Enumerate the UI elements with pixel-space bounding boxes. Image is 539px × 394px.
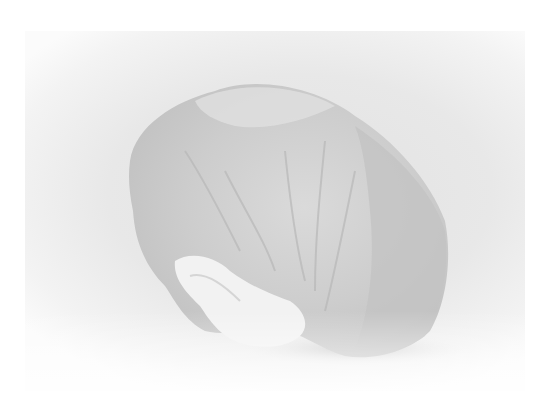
product-photo [25,31,525,391]
ground-shadow [245,333,465,365]
cap-illustration [25,31,525,391]
